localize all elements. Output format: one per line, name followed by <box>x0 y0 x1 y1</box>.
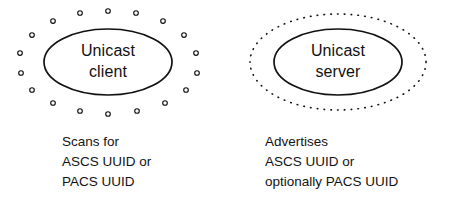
client-caption-line-1: Scans for <box>62 132 151 152</box>
unicast-server-node: Unicast server <box>238 4 438 122</box>
client-ellipse <box>44 29 172 95</box>
server-ellipse <box>274 29 402 95</box>
client-caption-line-2: ASCS UUID or <box>62 152 151 172</box>
server-caption-line-2: ASCS UUID or <box>265 152 398 172</box>
unicast-client-node: Unicast client <box>8 4 208 122</box>
diagram-canvas: Unicast client Scans for ASCS UUID or PA… <box>0 0 450 211</box>
client-caption-line-3: PACS UUID <box>62 172 151 192</box>
client-caption: Scans for ASCS UUID or PACS UUID <box>62 132 151 192</box>
server-caption-line-3: optionally PACS UUID <box>265 172 398 192</box>
server-caption: Advertises ASCS UUID or optionally PACS … <box>265 132 398 192</box>
server-caption-line-1: Advertises <box>265 132 398 152</box>
server-shape-svg <box>238 4 438 122</box>
client-shape-svg <box>8 4 208 122</box>
